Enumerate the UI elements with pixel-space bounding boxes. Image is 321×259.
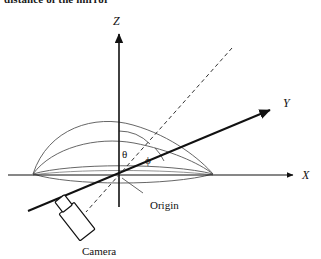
phi-angle-label: ϕ [145, 154, 151, 166]
origin-label: Origin [150, 199, 179, 211]
camera-icon [52, 193, 95, 241]
coordinate-diagram: Z Y X θ ϕ Origin Camera [0, 0, 321, 259]
theta-angle-arc [119, 131, 150, 144]
origin-leader-line [122, 178, 143, 193]
figure-root: distance of the mirror [0, 0, 321, 259]
y-axis-label: Y [283, 96, 291, 110]
theta-angle-label: θ [122, 148, 127, 160]
camera-label: Camera [82, 245, 116, 257]
x-axis-label: X [301, 168, 310, 182]
dashed-ray-line [86, 48, 232, 212]
z-axis-label: Z [113, 14, 120, 28]
